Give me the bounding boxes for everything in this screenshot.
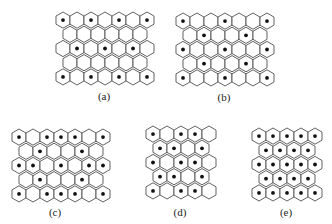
base-station-dot-icon <box>265 48 269 52</box>
hexagon-shape <box>181 169 195 185</box>
hex-cell <box>174 154 188 170</box>
base-station-dot-icon <box>257 134 261 138</box>
hex-cell <box>19 143 33 159</box>
base-station-dot-icon <box>223 19 227 23</box>
base-station-dot-icon <box>181 48 185 52</box>
hex-cell <box>91 55 105 71</box>
base-station-dot-icon <box>145 18 149 22</box>
hex-cell <box>181 169 195 185</box>
hex-cell <box>190 70 204 86</box>
hex-grid-svg <box>55 11 155 86</box>
hex-cell <box>280 128 294 144</box>
hex-cell <box>91 26 105 42</box>
hexagon-shape <box>225 27 239 43</box>
panel-a-hex-grid <box>55 11 155 86</box>
hex-cell <box>89 143 103 159</box>
base-station-dot-icon <box>172 175 176 179</box>
base-station-dot-icon <box>59 192 63 196</box>
hex-cell <box>33 172 47 188</box>
hex-cell <box>252 156 266 172</box>
hex-cell <box>12 186 26 202</box>
hex-cell <box>232 13 246 29</box>
hex-cell <box>61 143 75 159</box>
hexagon-shape <box>253 27 267 43</box>
hex-cell <box>308 185 322 201</box>
hex-cell <box>211 27 225 43</box>
hex-cell <box>54 157 68 173</box>
hex-cell <box>204 41 218 57</box>
hexagon-shape <box>190 70 204 86</box>
hexagon-shape <box>183 56 197 72</box>
hex-cell <box>68 129 82 145</box>
hex-cell <box>84 69 98 85</box>
hex-cell <box>195 169 209 185</box>
hex-cell <box>232 41 246 57</box>
hexagon-shape <box>204 13 218 29</box>
hexagon-shape <box>98 12 112 28</box>
hexagon-shape <box>19 172 33 188</box>
base-station-dot-icon <box>158 175 162 179</box>
panel-d-hex-grid <box>145 125 217 200</box>
hex-cell <box>70 40 84 56</box>
hex-cell <box>202 183 216 199</box>
hex-cell <box>63 26 77 42</box>
hex-cell <box>190 41 204 57</box>
hex-cell <box>252 185 266 201</box>
hexagon-shape <box>63 55 77 71</box>
panel-b-hex-grid <box>175 12 275 87</box>
hex-cell <box>266 128 280 144</box>
hex-cell <box>202 154 216 170</box>
hex-cell <box>119 55 133 71</box>
base-station-dot-icon <box>292 177 296 181</box>
hex-cell <box>77 55 91 71</box>
hex-cell <box>174 183 188 199</box>
base-station-dot-icon <box>264 148 268 152</box>
hex-cell <box>211 56 225 72</box>
base-station-dot-icon <box>17 135 21 139</box>
hex-cell <box>75 172 89 188</box>
hexagon-shape <box>253 56 267 72</box>
base-station-dot-icon <box>151 161 155 165</box>
hex-cell <box>63 55 77 71</box>
hex-cell <box>280 156 294 172</box>
caption-d: (d) <box>160 206 200 218</box>
hexagon-shape <box>232 41 246 57</box>
hexagon-shape <box>91 55 105 71</box>
hex-cell <box>40 157 54 173</box>
base-station-dot-icon <box>101 164 105 168</box>
hex-cell <box>280 185 294 201</box>
base-station-dot-icon <box>200 175 204 179</box>
base-station-dot-icon <box>265 76 269 80</box>
hex-cell <box>40 186 54 202</box>
hex-cell <box>225 56 239 72</box>
base-station-dot-icon <box>73 192 77 196</box>
hex-cell <box>160 126 174 142</box>
base-station-dot-icon <box>131 47 135 51</box>
hex-cell <box>183 56 197 72</box>
base-station-dot-icon <box>45 135 49 139</box>
hex-cell <box>12 129 26 145</box>
hexagon-shape <box>89 172 103 188</box>
hex-cell <box>82 129 96 145</box>
hexagon-shape <box>47 143 61 159</box>
hex-cell <box>82 157 96 173</box>
caption-b: (b) <box>204 91 244 103</box>
hex-grid-svg <box>11 128 111 203</box>
base-station-dot-icon <box>80 178 84 182</box>
base-station-dot-icon <box>17 164 21 168</box>
hexagon-shape <box>119 55 133 71</box>
base-station-dot-icon <box>313 191 317 195</box>
hex-cell <box>160 183 174 199</box>
hexagon-shape <box>68 157 82 173</box>
hexagon-shape <box>126 12 140 28</box>
hexagon-shape <box>40 157 54 173</box>
hex-cell <box>105 55 119 71</box>
hex-cell <box>232 70 246 86</box>
base-station-dot-icon <box>145 75 149 79</box>
base-station-dot-icon <box>181 76 185 80</box>
hexagon-shape <box>126 69 140 85</box>
hex-cell <box>12 157 26 173</box>
hex-cell <box>70 69 84 85</box>
base-station-dot-icon <box>172 146 176 150</box>
base-station-dot-icon <box>193 161 197 165</box>
